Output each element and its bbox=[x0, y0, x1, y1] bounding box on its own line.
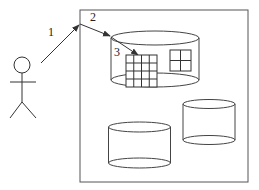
actor-head bbox=[14, 57, 30, 73]
actor-left-leg bbox=[10, 102, 22, 118]
label-step-3: 3 bbox=[114, 45, 120, 59]
actor-stick-figure bbox=[10, 57, 36, 118]
system-box bbox=[80, 10, 248, 182]
arrow-step-2 bbox=[80, 24, 110, 36]
arrow-step-1 bbox=[41, 25, 79, 63]
label-step-1: 1 bbox=[48, 25, 54, 39]
label-step-2: 2 bbox=[90, 10, 96, 24]
actor-right-leg bbox=[22, 102, 36, 118]
grid-2x2-table bbox=[170, 50, 191, 71]
bottom-left-cylinder bbox=[109, 122, 171, 168]
bottom-right-cylinder bbox=[183, 100, 235, 145]
grid-4x4-table bbox=[126, 55, 157, 87]
diagram-canvas: 1 2 3 bbox=[0, 0, 259, 190]
